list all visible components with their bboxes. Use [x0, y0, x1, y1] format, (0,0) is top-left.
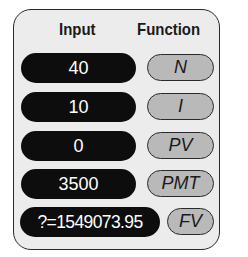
row-pmt: 3500 PMT: [14, 169, 219, 199]
row-fv: ?=1549073.95 FV: [14, 207, 219, 237]
tvm-calculator-panel: Input Function 40 N 10 I 0 PV 3500 PMT ?…: [13, 9, 220, 250]
function-key-pmt[interactable]: PMT: [147, 170, 214, 197]
input-value-i: 10: [21, 92, 136, 122]
function-key-pv[interactable]: PV: [147, 132, 214, 159]
function-key-fv[interactable]: FV: [167, 208, 214, 235]
row-n: 40 N: [14, 53, 219, 83]
function-key-n[interactable]: N: [147, 54, 214, 81]
input-column-header: Input: [59, 20, 96, 40]
input-value-pv: 0: [21, 131, 136, 161]
row-i: 10 I: [14, 92, 219, 122]
input-value-n: 40: [21, 53, 136, 83]
input-value-pmt: 3500: [21, 169, 136, 199]
row-pv: 0 PV: [14, 131, 219, 161]
function-key-i[interactable]: I: [147, 93, 214, 120]
function-column-header: Function: [137, 20, 200, 40]
result-value-fv: ?=1549073.95: [20, 207, 160, 237]
